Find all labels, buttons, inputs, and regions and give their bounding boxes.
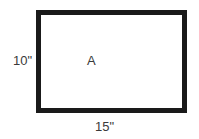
height-label: 10" [13,54,32,68]
area-label: A [87,54,96,68]
width-label: 15" [95,120,114,134]
rectangle-shape [36,10,187,113]
